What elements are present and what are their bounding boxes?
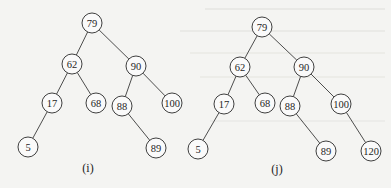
edges — [33, 30, 366, 143]
node-label: 5 — [25, 142, 30, 153]
edge-j-79-90 — [269, 34, 297, 60]
edge-i-17-5 — [33, 112, 47, 138]
edge-i-90-100 — [143, 73, 165, 96]
nodes: 796290176888100589796290176888100589120 — [18, 13, 381, 161]
node-label: 5 — [195, 144, 200, 155]
tree-i-node-68: 68 — [86, 93, 106, 113]
edge-i-62-68 — [77, 73, 91, 95]
edge-j-90-88 — [293, 76, 300, 96]
node-label: 79 — [87, 18, 98, 29]
tree-j-node-90: 90 — [294, 57, 314, 77]
edge-j-79-62 — [245, 36, 257, 58]
node-label: 68 — [91, 98, 102, 109]
captions: (i)(j) — [82, 161, 282, 176]
node-label: 62 — [235, 62, 246, 73]
tree-j-node-5: 5 — [188, 139, 208, 159]
tree-j-node-100: 100 — [331, 94, 351, 114]
node-label: 90 — [131, 61, 142, 72]
tree-i-node-88: 88 — [112, 96, 132, 116]
edge-i-88-89 — [128, 114, 149, 140]
caption-j: (j) — [271, 162, 282, 176]
node-label: 90 — [299, 62, 310, 73]
node-label: 88 — [117, 101, 128, 112]
tree-i-node-79: 79 — [82, 13, 102, 33]
node-label: 89 — [321, 146, 332, 157]
edge-i-62-17 — [57, 73, 68, 94]
tree-i-node-17: 17 — [42, 93, 62, 113]
node-label: 17 — [47, 98, 58, 109]
node-label: 17 — [219, 99, 230, 110]
tree-i-node-90: 90 — [126, 56, 146, 76]
bst-figure: 796290176888100589796290176888100589120 … — [0, 0, 391, 188]
edge-j-88-89 — [296, 114, 320, 143]
edge-i-90-88 — [125, 75, 132, 96]
edge-j-17-5 — [203, 113, 219, 141]
caption-i: (i) — [82, 161, 93, 175]
node-label: 68 — [260, 98, 271, 109]
tree-j-node-120: 120 — [361, 141, 381, 161]
tree-diagram: 796290176888100589796290176888100589120 … — [0, 0, 391, 188]
tree-j-node-88: 88 — [280, 96, 300, 116]
edge-i-79-62 — [76, 32, 87, 55]
tree-j-node-68: 68 — [255, 93, 275, 113]
tree-i-node-5: 5 — [18, 137, 38, 157]
node-label: 88 — [285, 101, 296, 112]
node-label: 120 — [363, 146, 379, 157]
tree-j-node-17: 17 — [214, 94, 234, 114]
node-label: 100 — [333, 99, 349, 110]
node-label: 100 — [164, 98, 180, 109]
edge-i-79-90 — [99, 30, 129, 59]
edge-j-100-120 — [346, 112, 365, 142]
node-label: 62 — [67, 59, 78, 70]
tree-j-node-89: 89 — [316, 141, 336, 161]
tree-i-node-89: 89 — [146, 138, 166, 158]
node-label: 79 — [257, 22, 268, 33]
edge-j-62-17 — [228, 76, 236, 95]
tree-j-node-79: 79 — [252, 17, 272, 37]
tree-j-node-62: 62 — [230, 57, 250, 77]
node-label: 89 — [151, 143, 162, 154]
tree-i-node-62: 62 — [62, 54, 82, 74]
tree-i-node-100: 100 — [162, 93, 182, 113]
edge-j-62-68 — [246, 75, 260, 95]
